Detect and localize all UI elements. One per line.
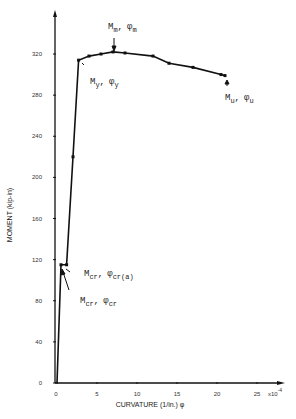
- data-point: [192, 66, 195, 69]
- data-point: [100, 53, 103, 56]
- x-tick-label: 15: [174, 391, 181, 397]
- y-tick-label: 120: [32, 257, 43, 263]
- y-tick-label: 80: [35, 298, 42, 304]
- data-point: [224, 74, 227, 77]
- y-tick-label: 320: [32, 51, 43, 57]
- data-points: [60, 50, 227, 266]
- x-axis-arrow-icon: [277, 381, 285, 385]
- moment-curvature-chart: 04080120160200240280320 0510152025 CURVA…: [0, 0, 296, 419]
- moment-curvature-line: [57, 52, 225, 383]
- x-tick-label: 20: [214, 391, 221, 397]
- annotation-mm: Mm,φm: [108, 22, 137, 34]
- x-axis-title: CURVATURE (1/in.) φ: [116, 401, 185, 409]
- x-tick-label: 5: [95, 391, 99, 397]
- y-tick-label: 160: [32, 216, 43, 222]
- data-point: [168, 62, 171, 65]
- arrow-mm-head-icon: [112, 46, 116, 51]
- data-point: [77, 59, 80, 62]
- arrow-my: [82, 63, 84, 65]
- annotation-my: My,φy: [90, 77, 119, 89]
- x-multiplier: x10-4: [268, 387, 282, 397]
- annotation-mcr: Mcr,φcr: [80, 296, 117, 308]
- y-tick-label: 240: [32, 133, 43, 139]
- data-point: [60, 263, 63, 266]
- data-point: [152, 55, 155, 58]
- data-point: [124, 51, 127, 54]
- arrow-mu-head-icon: [225, 80, 229, 84]
- y-tick-label: 0: [39, 380, 43, 386]
- data-point: [72, 155, 75, 158]
- annotation-mu: Mu,φu: [225, 93, 254, 105]
- y-axis-title: MOMENT (kip-in): [6, 188, 14, 242]
- y-tick-label: 200: [32, 174, 43, 180]
- x-tick-label: 0: [54, 391, 58, 397]
- y-axis-arrow-icon: [53, 10, 57, 17]
- x-tick-label: 25: [254, 391, 261, 397]
- data-point: [65, 263, 68, 266]
- y-tick-label: 40: [35, 339, 42, 345]
- data-point: [88, 55, 91, 58]
- x-ticks: 0510152025: [54, 382, 261, 397]
- arrow-cr-head-icon: [61, 269, 65, 275]
- data-point: [220, 73, 223, 76]
- y-tick-label: 280: [32, 92, 43, 98]
- y-ticks: 04080120160200240280320: [32, 51, 56, 386]
- annotation-mcr-a: Mcr,φcr(a): [84, 269, 134, 281]
- arrow-cra: [66, 269, 70, 272]
- x-tick-label: 10: [134, 391, 141, 397]
- annotation-arrows: [61, 38, 229, 290]
- axes: [53, 10, 285, 385]
